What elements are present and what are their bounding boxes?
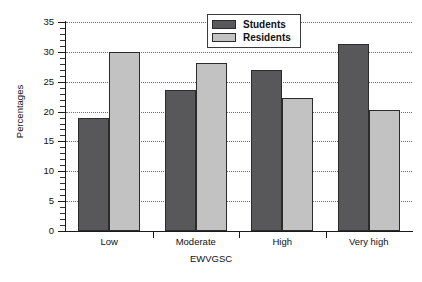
y-axis-minor-tick xyxy=(60,64,65,65)
y-axis-minor-tick xyxy=(60,76,65,77)
y-axis-tick xyxy=(58,82,65,83)
y-axis-minor-tick xyxy=(60,213,65,214)
plot-area xyxy=(66,22,412,231)
y-axis-minor-tick xyxy=(60,195,65,196)
y-axis-tick xyxy=(58,112,65,113)
y-axis-tick xyxy=(58,141,65,142)
bar-chart-figure: 05101520253035 Percentages EWVGSC Studen… xyxy=(0,0,422,282)
y-axis-minor-tick xyxy=(60,46,65,47)
y-axis-minor-tick xyxy=(60,70,65,71)
y-axis-minor-tick xyxy=(60,28,65,29)
bar-residents-high xyxy=(282,98,313,231)
bar-students-moderate xyxy=(165,90,196,231)
y-axis-tick xyxy=(58,171,65,172)
bar-residents-low xyxy=(109,52,140,231)
y-axis-minor-tick xyxy=(60,135,65,136)
y-axis-tick xyxy=(58,231,65,232)
y-axis-tick xyxy=(58,22,65,23)
legend-label-students: Students xyxy=(243,20,286,30)
y-axis-minor-tick xyxy=(60,177,65,178)
legend-item-residents: Residents xyxy=(212,31,296,44)
y-axis-tick-label: 30 xyxy=(24,47,54,57)
y-axis-tick-labels: 05101520253035 xyxy=(22,0,54,282)
y-axis-minor-tick xyxy=(60,159,65,160)
y-axis-minor-tick xyxy=(60,165,65,166)
legend-swatch-students-icon xyxy=(212,20,236,29)
y-axis-minor-tick xyxy=(60,207,65,208)
y-axis-tick-label: 20 xyxy=(24,107,54,117)
chart-legend: Students Residents xyxy=(207,14,301,48)
y-axis-minor-tick xyxy=(60,88,65,89)
y-axis-minor-tick xyxy=(60,124,65,125)
bar-residents-moderate xyxy=(196,63,227,231)
legend-swatch-residents-icon xyxy=(212,33,236,42)
x-axis-category-label: Very high xyxy=(324,237,414,247)
x-axis-category-label: Low xyxy=(64,237,154,247)
x-axis-title: EWVGSC xyxy=(0,253,422,264)
y-axis-minor-tick xyxy=(60,58,65,59)
y-axis-minor-tick xyxy=(60,153,65,154)
bar-residents-very-high xyxy=(369,110,400,231)
bar-students-low xyxy=(78,118,109,231)
y-axis-minor-tick xyxy=(60,100,65,101)
y-axis-minor-tick xyxy=(60,225,65,226)
y-axis-tick xyxy=(58,201,65,202)
y-axis-tick-label: 35 xyxy=(24,17,54,27)
y-axis-minor-tick xyxy=(60,129,65,130)
y-axis-tick-label: 0 xyxy=(24,226,54,236)
y-axis-tick-label: 5 xyxy=(24,196,54,206)
y-axis-minor-tick xyxy=(60,40,65,41)
y-axis-minor-tick xyxy=(60,34,65,35)
y-axis-minor-tick xyxy=(60,189,65,190)
y-axis-minor-tick xyxy=(60,106,65,107)
y-axis-minor-tick xyxy=(60,118,65,119)
y-axis-minor-tick xyxy=(60,219,65,220)
x-axis-category-label: High xyxy=(237,237,327,247)
y-axis-tick-label: 15 xyxy=(24,136,54,146)
y-axis-title: Percentages xyxy=(14,52,25,172)
legend-label-residents: Residents xyxy=(243,33,291,43)
legend-item-students: Students xyxy=(212,18,296,31)
y-axis-tick-label: 10 xyxy=(24,166,54,176)
y-axis-minor-tick xyxy=(60,183,65,184)
y-axis-minor-tick xyxy=(60,147,65,148)
bar-students-very-high xyxy=(338,44,369,232)
bar-students-high xyxy=(251,70,282,231)
x-axis-category-label: Moderate xyxy=(151,237,241,247)
y-axis-tick xyxy=(58,52,65,53)
y-axis-line xyxy=(65,21,66,232)
y-axis-tick-label: 25 xyxy=(24,77,54,87)
y-axis-minor-tick xyxy=(60,94,65,95)
